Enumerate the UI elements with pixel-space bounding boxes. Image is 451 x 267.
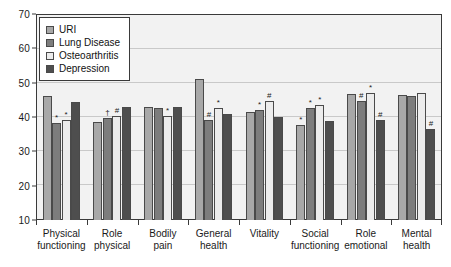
bar bbox=[154, 108, 163, 220]
bar bbox=[265, 101, 274, 220]
significance-marker: # bbox=[267, 92, 271, 100]
significance-marker: # bbox=[378, 111, 382, 119]
bar bbox=[255, 110, 264, 220]
x-tick-mark bbox=[441, 220, 442, 225]
bar bbox=[103, 118, 112, 220]
bar bbox=[122, 107, 131, 220]
legend: URILung DiseaseOsteoarthritisDepression bbox=[39, 17, 130, 81]
legend-item: URI bbox=[46, 23, 120, 36]
x-tick-label: Socialfunctioning bbox=[291, 228, 339, 251]
bar bbox=[71, 102, 80, 220]
bar bbox=[376, 120, 385, 220]
bar-group: * bbox=[138, 14, 189, 220]
y-tick-label: 30 bbox=[18, 146, 30, 157]
x-tick-label: Physicalfunctioning bbox=[37, 228, 85, 251]
legend-swatch-icon bbox=[46, 26, 54, 34]
y-tick-label: 60 bbox=[18, 43, 30, 54]
x-tick-mark bbox=[87, 220, 88, 225]
bar bbox=[112, 116, 121, 220]
bar bbox=[214, 108, 223, 220]
bar-group: #* bbox=[188, 14, 239, 220]
x-tick-label: Rolephysical bbox=[94, 228, 130, 251]
significance-marker: * bbox=[166, 107, 169, 115]
bar bbox=[398, 95, 407, 220]
x-tick-mark bbox=[239, 220, 240, 225]
bar-group: # bbox=[391, 14, 442, 220]
y-tick-label: 50 bbox=[18, 77, 30, 88]
x-tick-label: Roleemotional bbox=[344, 228, 387, 251]
bar bbox=[357, 101, 366, 220]
y-tick-label: 20 bbox=[18, 180, 30, 191]
y-axis: 10203040506070 bbox=[0, 0, 36, 267]
y-tick-label: 10 bbox=[18, 215, 30, 226]
legend-label: Osteoarthritis bbox=[59, 50, 118, 61]
significance-marker: * bbox=[309, 99, 312, 107]
bar bbox=[163, 116, 172, 220]
bar bbox=[144, 107, 153, 220]
x-tick-label: Bodilypain bbox=[149, 228, 176, 251]
bar bbox=[204, 120, 213, 220]
legend-item: Osteoarthritis bbox=[46, 49, 120, 62]
significance-marker: * bbox=[55, 114, 58, 122]
x-tick-label: Mentalhealth bbox=[402, 228, 432, 251]
bar-chart: 10203040506070 **†#*#**#***#*## Physical… bbox=[0, 0, 451, 267]
bar bbox=[93, 122, 102, 220]
bar bbox=[173, 107, 182, 220]
legend-swatch-icon bbox=[46, 39, 54, 47]
legend-label: Depression bbox=[59, 63, 110, 74]
legend-item: Depression bbox=[46, 62, 120, 75]
x-tick-mark bbox=[188, 220, 189, 225]
x-tick-mark bbox=[36, 220, 37, 225]
bar bbox=[347, 94, 356, 220]
bar-group: *# bbox=[239, 14, 290, 220]
x-axis: PhysicalfunctioningRolephysicalBodilypai… bbox=[36, 220, 442, 267]
bar bbox=[195, 79, 204, 220]
significance-marker: # bbox=[207, 111, 211, 119]
bar bbox=[43, 96, 52, 220]
x-tick-label: Vitality bbox=[250, 228, 279, 240]
legend-item: Lung Disease bbox=[46, 36, 120, 49]
bar bbox=[223, 114, 232, 220]
significance-marker: # bbox=[115, 107, 119, 115]
bar bbox=[315, 105, 324, 220]
y-tick-label: 70 bbox=[18, 9, 30, 20]
significance-marker: * bbox=[258, 101, 261, 109]
significance-marker: * bbox=[217, 99, 220, 107]
x-tick-mark bbox=[341, 220, 342, 225]
y-tick-label: 40 bbox=[18, 112, 30, 123]
x-tick-label: Generalhealth bbox=[196, 228, 232, 251]
bar bbox=[296, 125, 305, 220]
significance-marker: * bbox=[369, 84, 372, 92]
bar bbox=[325, 121, 334, 220]
legend-label: URI bbox=[59, 24, 76, 35]
x-tick-mark bbox=[290, 220, 291, 225]
x-tick-mark bbox=[391, 220, 392, 225]
bar bbox=[62, 120, 71, 220]
bar bbox=[407, 96, 416, 220]
bar bbox=[246, 112, 255, 220]
significance-marker: † bbox=[105, 109, 109, 117]
bar bbox=[426, 129, 435, 220]
significance-marker: # bbox=[429, 120, 433, 128]
bar bbox=[366, 93, 375, 220]
significance-marker: * bbox=[65, 111, 68, 119]
bar bbox=[417, 93, 426, 220]
significance-marker: * bbox=[318, 96, 321, 104]
significance-marker: * bbox=[299, 116, 302, 124]
legend-swatch-icon bbox=[46, 52, 54, 60]
bar-group: #*# bbox=[341, 14, 392, 220]
bar-group: *** bbox=[290, 14, 341, 220]
legend-label: Lung Disease bbox=[59, 37, 120, 48]
x-tick-mark bbox=[138, 220, 139, 225]
bar bbox=[52, 123, 61, 221]
legend-swatch-icon bbox=[46, 65, 54, 73]
significance-marker: # bbox=[359, 92, 363, 100]
bar bbox=[306, 108, 315, 220]
bar bbox=[274, 117, 283, 220]
